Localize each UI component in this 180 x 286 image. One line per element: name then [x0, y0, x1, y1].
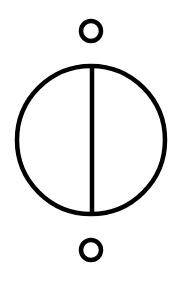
- bottom-terminal-icon: [81, 240, 101, 260]
- diagram-canvas: Schematic symbol: circle with vertical l…: [0, 0, 180, 286]
- top-terminal-icon: [81, 21, 101, 41]
- current-source-symbol: [0, 0, 180, 286]
